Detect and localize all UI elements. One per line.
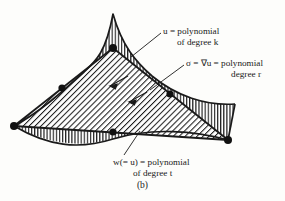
node-midpoint-right-edge	[166, 90, 173, 97]
figure-caption: (b)	[0, 180, 285, 190]
node-midpoint-left-edge	[58, 84, 65, 91]
label-w-line2: of degree t	[113, 168, 189, 179]
label-sigma-line2: degree r	[186, 69, 263, 80]
label-w: w(= u) = polynomial of degree t	[113, 157, 189, 179]
node-vertex-apex	[109, 44, 117, 52]
leader-line-u	[131, 33, 161, 57]
label-sigma: σ = ∇u = polynomial degree r	[186, 58, 263, 80]
label-u-line2: of degree k	[163, 37, 219, 48]
node-vertex-right	[224, 136, 232, 144]
node-midpoint-bottom	[109, 128, 116, 135]
label-u-line1: u = polynomial	[163, 26, 219, 36]
node-vertex-left	[10, 122, 18, 130]
label-u: u = polynomial of degree k	[163, 26, 219, 48]
figure-container: u = polynomial of degree k σ = ∇u = poly…	[0, 0, 285, 201]
label-w-line1: w(= u) = polynomial	[113, 157, 189, 167]
label-sigma-line1: σ = ∇u = polynomial	[186, 58, 263, 68]
